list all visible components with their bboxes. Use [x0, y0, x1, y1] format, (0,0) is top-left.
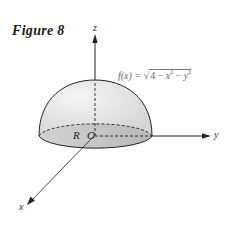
x-axis	[31, 137, 93, 201]
y-axis-arrowhead	[202, 133, 211, 138]
figure-title: Figure 8	[12, 23, 65, 39]
region-label: R	[73, 129, 80, 141]
minus-sign: −	[173, 70, 184, 81]
origin-label: O	[87, 129, 95, 141]
radicand: 4 − x2 − y2	[149, 69, 191, 81]
y-axis-label: y	[214, 129, 218, 140]
z-axis-arrowhead	[92, 34, 97, 43]
x-axis-label: x	[19, 201, 23, 212]
radicand-constant: 4 −	[150, 70, 166, 81]
formula-lhs: f(x) =	[118, 70, 144, 81]
y-exponent: 2	[188, 69, 191, 75]
z-axis-label: z	[93, 22, 97, 33]
function-formula: f(x) = √4 − x2 − y2	[118, 70, 191, 81]
